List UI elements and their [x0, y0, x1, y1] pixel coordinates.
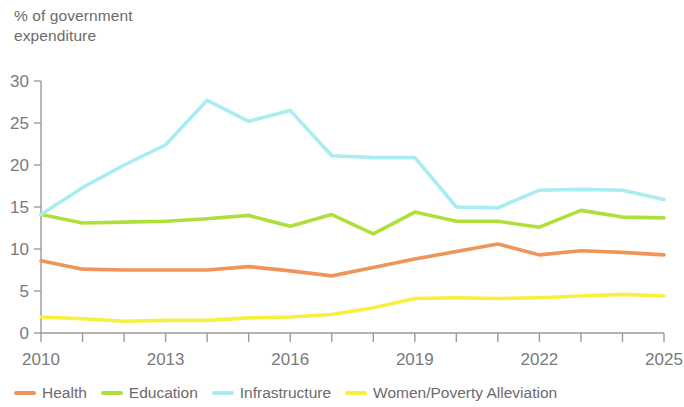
legend-item[interactable]: Health	[14, 384, 87, 402]
y-axis-tick-label: 25	[10, 114, 29, 133]
legend-swatch-icon	[101, 391, 123, 395]
chart-container: % of government expenditure 051015202530…	[0, 0, 684, 407]
series-line-health	[41, 244, 664, 276]
series-line-women-poverty-alleviation	[41, 294, 664, 321]
y-axis-tick-label: 10	[10, 240, 29, 259]
series-line-education	[41, 210, 664, 234]
legend-item-label: Health	[42, 384, 87, 402]
series-line-infrastructure	[41, 100, 664, 214]
y-axis-tick-label: 5	[20, 282, 29, 301]
x-axis-tick-label: 2013	[147, 350, 185, 369]
y-axis-tick-label: 30	[10, 72, 29, 91]
x-axis-tick-label: 2016	[271, 350, 309, 369]
legend-item[interactable]: Infrastructure	[212, 384, 331, 402]
y-axis-tick-label: 0	[20, 324, 29, 343]
legend-item[interactable]: Education	[101, 384, 198, 402]
line-chart-plot: 051015202530201020132016201920222025	[0, 0, 684, 378]
y-axis-tick-label: 15	[10, 198, 29, 217]
legend-item-label: Education	[129, 384, 198, 402]
legend-swatch-icon	[14, 391, 36, 395]
y-axis-tick-label: 20	[10, 156, 29, 175]
legend-item-label: Infrastructure	[240, 384, 331, 402]
chart-legend: HealthEducationInfrastructureWomen/Pover…	[0, 378, 684, 407]
x-axis-tick-label: 2025	[645, 350, 683, 369]
legend-item-label: Women/Poverty Alleviation	[373, 384, 557, 402]
x-axis-tick-label: 2010	[22, 350, 60, 369]
x-axis-tick-label: 2022	[520, 350, 558, 369]
x-axis-tick-label: 2019	[396, 350, 434, 369]
legend-swatch-icon	[345, 391, 367, 395]
legend-item[interactable]: Women/Poverty Alleviation	[345, 384, 557, 402]
legend-swatch-icon	[212, 391, 234, 395]
